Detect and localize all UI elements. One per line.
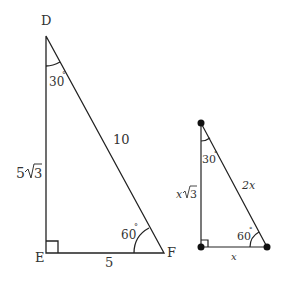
degree-symbol: °	[62, 70, 66, 79]
side-label-de: 5 3	[16, 164, 42, 181]
angle-arc-d	[46, 62, 60, 66]
vertex-label-d: D	[41, 13, 51, 28]
degree-symbol: °	[134, 222, 138, 231]
vertex-dot-bottom-right	[264, 244, 271, 251]
side-label-df: 10	[113, 132, 130, 147]
vertex-dot-bottom-left	[198, 244, 205, 251]
vertex-label-f: F	[167, 245, 176, 260]
vertex-dot-top	[198, 120, 205, 127]
angle-arc-small-top	[201, 138, 210, 141]
small-side-label-vertical: x 3	[176, 186, 197, 201]
small-triangle-outline	[201, 123, 267, 247]
svg-text:3: 3	[34, 166, 42, 181]
svg-text:3: 3	[190, 188, 197, 201]
small-angle-label-top: 30 °	[202, 150, 218, 166]
small-angle-label-right: 60 °	[237, 226, 253, 243]
triangle-diagram: D E F 30 ° 60 ° 5 3 10 5 30 ° 60 ° x 3 2…	[0, 0, 283, 281]
small-side-label-base: x	[231, 251, 237, 262]
large-triangle	[46, 36, 164, 253]
side-label-ef: 5	[105, 255, 113, 270]
angle-label-d: 30 °	[49, 70, 66, 89]
angle-arc-small-right	[250, 232, 259, 247]
vertex-label-e: E	[35, 250, 45, 265]
small-side-label-hypotenuse: 2x	[241, 179, 256, 192]
svg-text:x: x	[176, 188, 183, 201]
angle-label-f: 60 °	[121, 222, 138, 242]
svg-text:5: 5	[16, 165, 25, 181]
triangle-def-outline	[46, 36, 164, 253]
small-triangle	[201, 123, 267, 247]
degree-symbol: °	[214, 150, 218, 158]
degree-symbol: °	[249, 226, 253, 234]
right-angle-marker-e	[46, 241, 58, 253]
